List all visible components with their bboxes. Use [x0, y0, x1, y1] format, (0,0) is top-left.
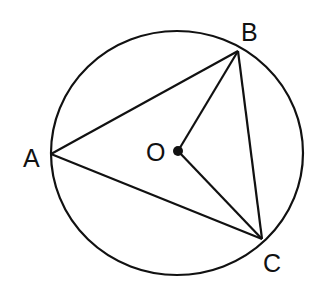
segment-ca	[51, 154, 262, 239]
segment-bc	[238, 51, 262, 239]
center-point	[173, 146, 183, 156]
label-o: O	[146, 138, 165, 166]
label-c: C	[263, 249, 281, 277]
label-a: A	[23, 144, 40, 172]
segment-oc	[178, 151, 262, 239]
segment-ob	[178, 51, 238, 151]
geometry-diagram: A B C O	[0, 0, 314, 289]
diagram-canvas: A B C O	[0, 0, 314, 289]
segment-ab	[51, 51, 238, 154]
label-b: B	[241, 18, 258, 46]
